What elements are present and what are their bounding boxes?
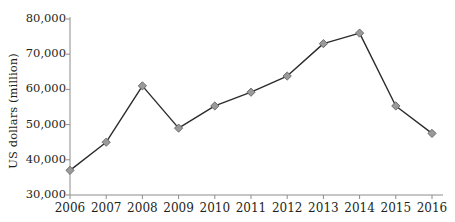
data-point-marker xyxy=(211,102,219,110)
line-chart: US dollars (million) 30,00040,00050,0006… xyxy=(0,0,455,222)
data-series xyxy=(70,33,432,170)
data-point-marker xyxy=(356,29,364,37)
plot-area xyxy=(0,0,455,222)
axes xyxy=(66,17,443,199)
data-markers xyxy=(66,29,436,174)
series-line xyxy=(70,33,432,170)
data-point-marker xyxy=(247,88,255,96)
